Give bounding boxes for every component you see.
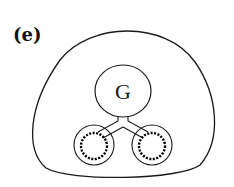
outer-boundary [33, 31, 215, 177]
left-lobe [74, 125, 114, 165]
right-coil [139, 133, 165, 159]
g-label: G [115, 79, 131, 104]
stem [98, 116, 148, 138]
diagram: G [0, 0, 234, 187]
left-coil [81, 133, 107, 159]
right-lobe [132, 125, 172, 165]
